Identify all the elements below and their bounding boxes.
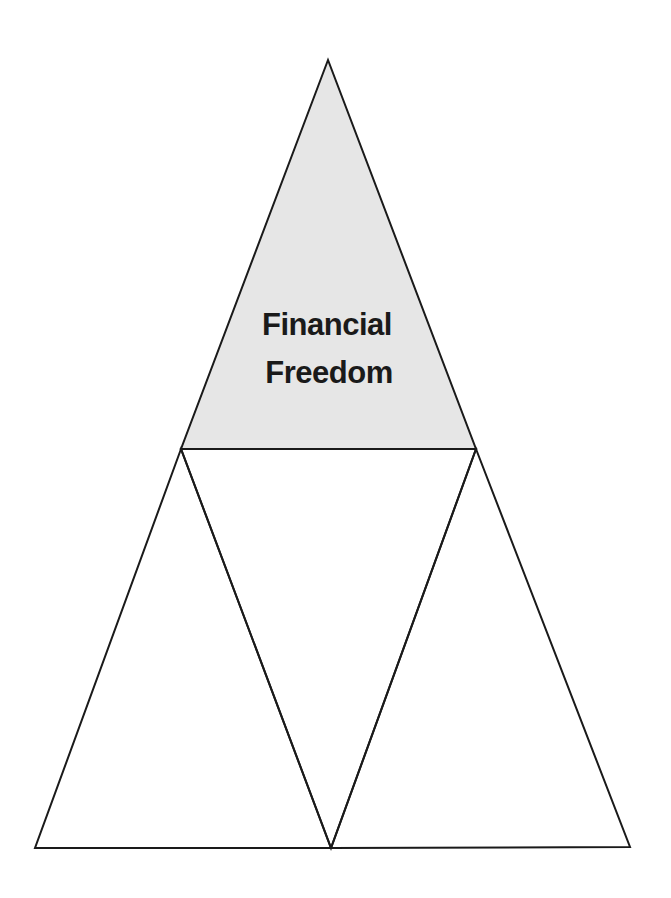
top-triangle-label-line-1: Financial [262,307,392,342]
top-triangle-label-line-2: Freedom [265,355,392,390]
top-triangle [181,60,476,449]
bottom-left-triangle [35,449,331,848]
bottom-right-triangle [331,449,630,848]
center-inverted-triangle [181,449,476,848]
pyramid-diagram: Financial Freedom [0,0,671,898]
